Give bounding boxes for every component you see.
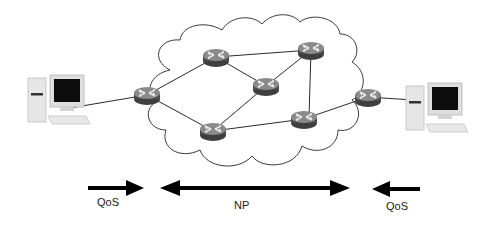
desktop-computer-icon bbox=[28, 75, 90, 124]
router-icon bbox=[291, 111, 317, 129]
desktop-computer-icon bbox=[406, 83, 468, 132]
router-icon bbox=[298, 42, 324, 60]
router-icon bbox=[355, 89, 381, 107]
router-icon bbox=[203, 49, 229, 67]
qos-right-arrow-shaft bbox=[386, 187, 420, 191]
diagram-graphics bbox=[0, 0, 491, 225]
router-icon bbox=[134, 87, 160, 105]
qos-right-label: QoS bbox=[386, 200, 408, 212]
qos-left-arrow-head bbox=[126, 180, 144, 196]
arrows bbox=[88, 180, 420, 197]
qos-left-label: QoS bbox=[97, 196, 119, 208]
np-arrow-head-right bbox=[330, 180, 350, 196]
np-label: NP bbox=[234, 199, 249, 211]
qos-right-arrow-head bbox=[372, 181, 390, 197]
router-icon bbox=[200, 123, 226, 141]
router-icon bbox=[253, 78, 279, 96]
qos-left-arrow-shaft bbox=[88, 186, 128, 190]
network-diagram: QoS NP QoS bbox=[0, 0, 491, 225]
np-arrow-head-left bbox=[160, 180, 180, 196]
np-arrow-shaft bbox=[176, 186, 334, 190]
